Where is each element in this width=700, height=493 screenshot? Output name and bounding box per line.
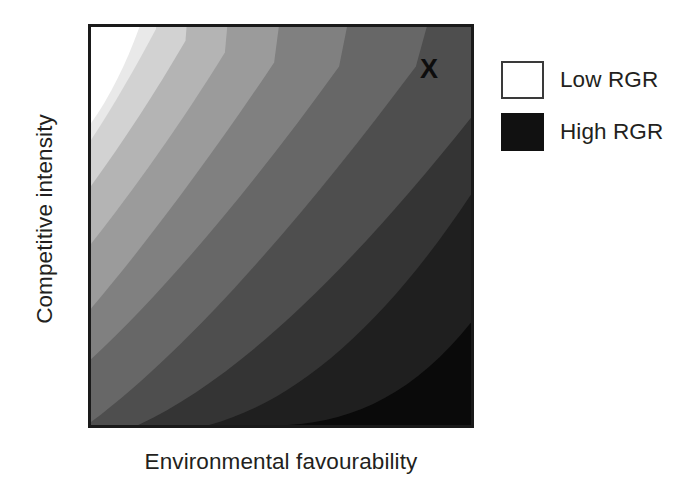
- y-axis-label: Competitive intensity: [32, 49, 58, 389]
- x-marker: X: [416, 52, 442, 86]
- legend-label-low-rgr: Low RGR: [560, 67, 658, 93]
- legend-item-low-rgr: Low RGR: [501, 60, 691, 100]
- contour-heatmap: [91, 27, 471, 425]
- x-axis-label: Environmental favourability: [88, 449, 474, 475]
- legend-swatch-high-rgr: [501, 113, 544, 151]
- legend: Low RGR High RGR: [501, 60, 691, 164]
- legend-label-high-rgr: High RGR: [560, 119, 663, 145]
- legend-item-high-rgr: High RGR: [501, 112, 691, 152]
- contour-bands: [91, 27, 471, 425]
- legend-swatch-low-rgr: [501, 61, 544, 99]
- figure-root: X Competitive intensity Environmental fa…: [0, 0, 700, 493]
